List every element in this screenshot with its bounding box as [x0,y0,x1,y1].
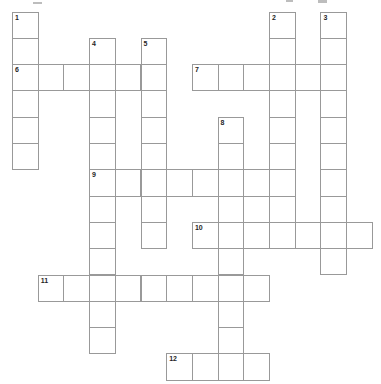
crossword-cell[interactable] [243,353,270,380]
crossword-cell[interactable] [320,117,347,144]
crossword-cell[interactable] [192,275,219,302]
crossword-cell[interactable]: 7 [192,64,219,91]
crossword-cell[interactable]: 4 [89,38,116,65]
crossword-cell[interactable] [320,248,347,275]
crossword-cell[interactable] [141,143,168,170]
crossword-cell[interactable] [12,117,39,144]
crossword-cell[interactable] [269,143,296,170]
crossword-cell[interactable] [243,275,270,302]
crossword-cell[interactable] [38,64,65,91]
crossword-board: 162349578101112 [0,0,381,384]
crossword-cell[interactable] [218,275,245,302]
clue-number: 3 [323,14,327,22]
crossword-cell[interactable] [218,196,245,223]
clue-number: 4 [92,40,96,48]
crossword-cell[interactable]: 6 [12,64,39,91]
crossword-cell[interactable] [295,222,322,249]
crossword-cell[interactable] [12,143,39,170]
crossword-cell[interactable] [89,117,116,144]
clue-number: 5 [144,40,148,48]
crossword-cell[interactable]: 10 [192,222,219,249]
crossword-cell[interactable] [63,64,90,91]
crossword-cell[interactable] [141,117,168,144]
crossword-cell[interactable] [243,169,270,196]
crossword-cell[interactable] [141,90,168,117]
clue-number: 6 [15,66,19,74]
crossword-cell[interactable] [115,275,142,302]
clue-number: 12 [169,355,177,363]
crossword-cell[interactable] [320,169,347,196]
crossword-cell[interactable]: 3 [320,12,347,39]
crossword-cell[interactable] [218,64,245,91]
clue-number: 11 [41,277,48,285]
crossword-cell[interactable]: 9 [89,169,116,196]
crossword-cell[interactable] [12,90,39,117]
crossword-cell[interactable] [269,196,296,223]
crossword-cell[interactable] [141,222,168,249]
crossword-cell[interactable] [320,143,347,170]
crossword-cell[interactable] [89,301,116,328]
crossword-cell[interactable]: 11 [38,275,65,302]
crossword-cell[interactable] [243,222,270,249]
crossword-cell[interactable]: 1 [12,12,39,39]
crossword-cell[interactable] [89,90,116,117]
crossword-cell[interactable] [218,301,245,328]
crossword-cell[interactable]: 5 [141,38,168,65]
crossword-cell[interactable] [243,64,270,91]
crossword-cell[interactable] [269,222,296,249]
crossword-cell[interactable] [89,64,116,91]
crossword-cell[interactable] [320,90,347,117]
cropped-top-edge-artifact [286,0,293,2]
crossword-cell[interactable] [320,38,347,65]
crossword-cell[interactable] [269,117,296,144]
crossword-cell[interactable]: 2 [269,12,296,39]
cropped-top-edge-artifact [318,0,327,3]
crossword-cell[interactable] [115,169,142,196]
clue-number: 9 [92,171,96,179]
crossword-cell[interactable] [192,353,219,380]
clue-number: 10 [195,224,203,232]
crossword-cell[interactable] [269,90,296,117]
crossword-cell[interactable] [320,64,347,91]
crossword-cell[interactable] [89,222,116,249]
cropped-top-edge-artifact [33,2,42,4]
crossword-cell[interactable] [192,169,219,196]
crossword-cell[interactable] [218,169,245,196]
crossword-cell[interactable] [320,222,347,249]
crossword-cell[interactable] [89,143,116,170]
crossword-cell[interactable]: 12 [166,353,193,380]
crossword-cell[interactable] [12,38,39,65]
crossword-cell[interactable] [218,248,245,275]
crossword-cell[interactable] [218,222,245,249]
crossword-cell[interactable] [218,143,245,170]
crossword-cell[interactable] [166,275,193,302]
crossword-cell[interactable] [166,169,193,196]
crossword-cell[interactable] [63,275,90,302]
crossword-screenshot: 162349578101112 [0,0,381,384]
crossword-cell[interactable] [89,275,116,302]
crossword-cell[interactable]: 8 [218,117,245,144]
crossword-cell[interactable] [141,169,168,196]
crossword-cell[interactable] [269,64,296,91]
crossword-cell[interactable] [346,222,373,249]
clue-number: 7 [195,66,199,74]
crossword-cell[interactable] [218,327,245,354]
crossword-cell[interactable] [295,64,322,91]
clue-number: 8 [221,119,225,127]
crossword-cell[interactable] [89,196,116,223]
crossword-cell[interactable] [141,275,168,302]
crossword-cell[interactable] [89,327,116,354]
crossword-cell[interactable] [141,64,168,91]
crossword-cell[interactable] [269,38,296,65]
clue-number: 1 [15,14,19,22]
crossword-cell[interactable] [141,196,168,223]
crossword-cell[interactable] [269,169,296,196]
crossword-cell[interactable] [89,248,116,275]
crossword-cell[interactable] [115,64,142,91]
crossword-cell[interactable] [320,196,347,223]
crossword-cell[interactable] [218,353,245,380]
clue-number: 2 [272,14,276,22]
